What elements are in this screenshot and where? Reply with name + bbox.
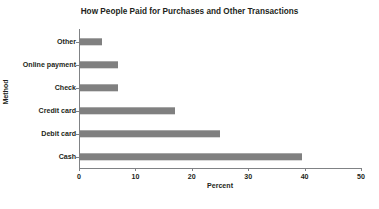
x-tick-label-30: 30 [236, 173, 260, 181]
x-tick-mark [361, 168, 362, 171]
y-tick-label-other: Other [6, 38, 76, 46]
x-tick-label-10: 10 [123, 173, 147, 181]
bar-row [79, 30, 361, 53]
bar-row [79, 122, 361, 145]
x-tick-label-0: 0 [67, 173, 91, 181]
bar-chart: How People Paid for Purchases and Other … [0, 0, 379, 209]
plot-area [79, 30, 361, 168]
x-tick-label-40: 40 [293, 173, 317, 181]
bar-other [79, 38, 102, 45]
y-tick-mark [76, 111, 79, 112]
x-tick-mark [192, 168, 193, 171]
bar-row [79, 145, 361, 168]
bar-debit-card [79, 130, 220, 137]
bar-row [79, 76, 361, 99]
y-tick-mark [76, 65, 79, 66]
x-tick-mark [135, 168, 136, 171]
x-tick-mark [305, 168, 306, 171]
bar-cash [79, 153, 302, 160]
y-tick-label-online-payment: Online payment [6, 61, 76, 69]
y-axis-tick-labels: CashDebit cardCredit cardCheckOnline pay… [2, 30, 76, 168]
x-tick-label-20: 20 [180, 173, 204, 181]
y-tick-label-check: Check [6, 84, 76, 92]
chart-title: How People Paid for Purchases and Other … [0, 7, 379, 16]
bar-online-payment [79, 61, 118, 68]
x-axis-title: Percent [79, 182, 361, 190]
bar-row [79, 53, 361, 76]
y-tick-mark [76, 134, 79, 135]
x-tick-mark [79, 168, 80, 171]
y-tick-label-credit-card: Credit card [6, 107, 76, 115]
y-tick-label-debit-card: Debit card [6, 130, 76, 138]
bar-row [79, 99, 361, 122]
y-tick-mark [76, 42, 79, 43]
y-tick-mark [76, 157, 79, 158]
bar-check [79, 84, 118, 91]
y-tick-label-cash: Cash [6, 153, 76, 161]
y-tick-mark [76, 88, 79, 89]
bar-credit-card [79, 107, 175, 114]
x-tick-label-50: 50 [349, 173, 373, 181]
x-axis-ticks: 01020304050 [79, 168, 361, 194]
x-tick-mark [248, 168, 249, 171]
